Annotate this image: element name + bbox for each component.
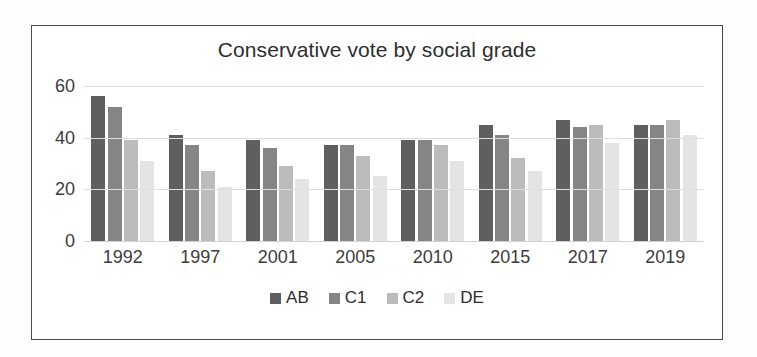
bar-2010-C2 [434, 145, 448, 241]
legend-swatch-AB [270, 293, 281, 304]
bar-group-2010 [394, 86, 472, 241]
bar-2005-C2 [356, 156, 370, 241]
x-axis-label-1997: 1997 [162, 247, 240, 268]
legend-swatch-C1 [329, 293, 340, 304]
legend-label-C1: C1 [345, 288, 367, 308]
legend-item-C1[interactable]: C1 [329, 288, 367, 308]
legend-label-C2: C2 [403, 288, 425, 308]
bar-group-2001 [239, 86, 317, 241]
chart-frame: Conservative vote by social grade 020406… [31, 25, 723, 340]
bar-2010-DE [450, 161, 464, 241]
bar-group-1992 [84, 86, 162, 241]
bar-group-2017 [549, 86, 627, 241]
bars-layer [84, 86, 704, 241]
bar-2015-AB [479, 125, 493, 241]
x-axis-label-2001: 2001 [239, 247, 317, 268]
bar-1997-AB [169, 135, 183, 241]
bar-2017-C1 [573, 127, 587, 241]
x-axis-label-2015: 2015 [472, 247, 550, 268]
y-tick-label-0: 0 [65, 231, 75, 252]
chart-legend: ABC1C2DE [32, 288, 722, 308]
gridline-40 [84, 138, 704, 139]
y-tick-label-60: 60 [55, 76, 75, 97]
gridline-60 [84, 86, 704, 87]
bar-2019-DE [683, 135, 697, 241]
bar-1992-C1 [108, 107, 122, 241]
bar-1997-C1 [185, 145, 199, 241]
bar-1992-DE [140, 161, 154, 241]
chart-title: Conservative vote by social grade [32, 38, 722, 62]
gridline-20 [84, 189, 704, 190]
bar-group-2019 [627, 86, 705, 241]
bar-2015-C2 [511, 158, 525, 241]
bar-1992-C2 [124, 140, 138, 241]
bar-2005-AB [324, 145, 338, 241]
x-axis-label-2005: 2005 [317, 247, 395, 268]
bar-2010-C1 [418, 140, 432, 241]
bar-2010-AB [401, 140, 415, 241]
x-axis-labels: 19921997200120052010201520172019 [84, 247, 704, 268]
y-tick-label-40: 40 [55, 127, 75, 148]
bar-2001-AB [246, 140, 260, 241]
bar-2019-C1 [650, 125, 664, 241]
bar-2017-DE [605, 143, 619, 241]
legend-label-AB: AB [286, 288, 309, 308]
legend-swatch-DE [444, 293, 455, 304]
x-axis-label-2019: 2019 [627, 247, 705, 268]
bar-1992-AB [91, 96, 105, 241]
y-tick-label-20: 20 [55, 179, 75, 200]
bar-group-2005 [317, 86, 395, 241]
bar-2015-C1 [495, 135, 509, 241]
bar-2001-C2 [279, 166, 293, 241]
plot-area: 0204060 [84, 86, 704, 241]
legend-label-DE: DE [460, 288, 484, 308]
legend-item-C2[interactable]: C2 [387, 288, 425, 308]
x-axis-label-2017: 2017 [549, 247, 627, 268]
bar-group-1997 [162, 86, 240, 241]
bar-1997-C2 [201, 171, 215, 241]
bar-2005-C1 [340, 145, 354, 241]
legend-item-AB[interactable]: AB [270, 288, 309, 308]
gridline-0 [84, 241, 704, 242]
bar-2001-C1 [263, 148, 277, 241]
legend-item-DE[interactable]: DE [444, 288, 484, 308]
bar-group-2015 [472, 86, 550, 241]
x-axis-label-2010: 2010 [394, 247, 472, 268]
bar-1997-DE [218, 187, 232, 241]
bar-2019-AB [634, 125, 648, 241]
bar-2005-DE [373, 176, 387, 241]
legend-swatch-C2 [387, 293, 398, 304]
bar-2017-C2 [589, 125, 603, 241]
bar-2015-DE [528, 171, 542, 241]
bar-2001-DE [295, 179, 309, 241]
x-axis-label-1992: 1992 [84, 247, 162, 268]
